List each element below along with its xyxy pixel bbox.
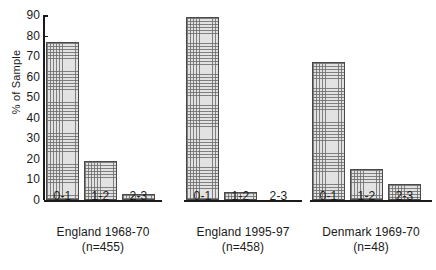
x-axis-category-label: 2-3 — [256, 189, 301, 203]
group-caption-3: Denmark 1969-70(n=48) — [296, 225, 436, 255]
y-axis-tick-mark — [43, 36, 48, 38]
y-axis-tick-30: 30 — [6, 132, 40, 144]
y-axis-tick-0: 0 — [6, 194, 40, 206]
group-name: England 1968-70 — [57, 225, 150, 239]
x-axis-category-label: 2-3 — [116, 189, 161, 203]
y-axis-tick-10: 10 — [6, 173, 40, 185]
group-caption-2: England 1995-97(n=458) — [170, 225, 316, 255]
group-name: England 1995-97 — [197, 225, 290, 239]
bar-group-2 — [184, 15, 302, 200]
bar-0-1[interactable] — [46, 42, 79, 200]
y-axis-tick-50: 50 — [6, 91, 40, 103]
bar-0-1[interactable] — [186, 17, 219, 200]
bar-group-3 — [310, 15, 432, 200]
group-sample-size: (n=458) — [170, 240, 316, 255]
group-sample-size: (n=48) — [296, 240, 436, 255]
x-axis-category-label: 2-3 — [382, 189, 427, 203]
bar-group-1 — [44, 15, 162, 200]
group-name: Denmark 1969-70 — [322, 225, 420, 239]
bar-0-1[interactable] — [312, 62, 345, 200]
y-axis-tick-60: 60 — [6, 71, 40, 83]
y-axis-tick-20: 20 — [6, 153, 40, 165]
bar-chart: % of Sample 9080706050403020100 0-11-22-… — [0, 0, 436, 270]
group-caption-1: England 1968-70(n=455) — [30, 225, 176, 255]
plot-area — [44, 15, 432, 200]
y-axis-tick-70: 70 — [6, 50, 40, 62]
y-axis-tick-mark — [43, 15, 48, 17]
group-sample-size: (n=455) — [30, 240, 176, 255]
y-axis-tick-40: 40 — [6, 112, 40, 124]
y-axis-tick-90: 90 — [6, 9, 40, 21]
y-axis-tick-80: 80 — [6, 30, 40, 42]
